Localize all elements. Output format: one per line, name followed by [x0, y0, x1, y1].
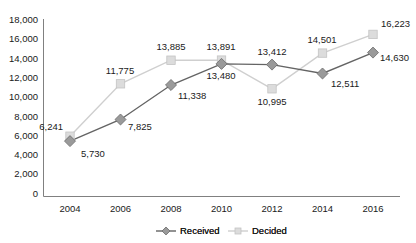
x-axis-tick-labels: 2004 2006 2008 2010 2012 2014 2016: [59, 203, 383, 214]
legend-marker-diamond-icon: [162, 227, 170, 235]
y-tick-label: 0: [33, 188, 38, 199]
data-point-decided: [318, 49, 326, 57]
legend-item-decided[interactable]: Decided Decided: [228, 225, 287, 236]
x-tick-label: 2008: [160, 203, 181, 214]
data-label-received: 13,480: [206, 70, 235, 81]
data-label-decided: 16,223: [381, 18, 410, 29]
chart-legend: Received Received Decided Decided: [156, 225, 287, 236]
data-label-received: 13,412: [257, 46, 286, 57]
data-label-received: 7,825: [128, 121, 152, 132]
data-point-received: [367, 47, 378, 58]
legend-item-received[interactable]: Received Received: [156, 225, 220, 236]
data-point-received: [317, 68, 328, 79]
y-tick-label: 6,000: [14, 130, 38, 141]
x-tick-label: 2004: [59, 203, 80, 214]
x-tick-label: 2012: [261, 203, 282, 214]
y-tick-label: 2,000: [14, 168, 38, 179]
data-label-decided: 11,775: [106, 65, 134, 76]
data-point-received: [165, 79, 176, 90]
data-point-received: [115, 114, 126, 125]
data-label-decided: 10,995: [257, 96, 286, 107]
data-label-received: 5,730: [81, 148, 105, 159]
data-label-decided: 13,885: [156, 41, 185, 52]
chart-container: 18,000 16,000 14,000 12,000 10,000 8,000…: [0, 0, 416, 243]
y-axis-tick-labels: 18,000 16,000 14,000 12,000 10,000 8,000…: [9, 14, 38, 199]
y-tick-label: 14,000: [9, 53, 38, 64]
y-tick-label: 12,000: [9, 72, 38, 83]
data-label-decided: 6,241: [39, 121, 63, 132]
legend-label-decided-alt: Decided: [252, 225, 287, 236]
x-tick-label: 2016: [362, 203, 383, 214]
y-tick-label: 18,000: [9, 14, 38, 25]
data-label-decided: 13,891: [206, 41, 235, 52]
series-markers-received: [64, 47, 378, 147]
y-tick-label: 8,000: [14, 111, 38, 122]
data-label-received: 11,338: [178, 90, 206, 101]
data-point-received: [266, 59, 277, 70]
data-label-received: 14,630: [380, 52, 409, 63]
data-label-decided: 14,501: [307, 34, 336, 45]
legend-label-received-alt: Received: [180, 225, 220, 236]
data-point-decided: [268, 85, 276, 93]
line-chart: 18,000 16,000 14,000 12,000 10,000 8,000…: [0, 0, 416, 243]
y-tick-label: 10,000: [9, 91, 38, 102]
x-tick-label: 2010: [211, 203, 232, 214]
y-tick-label: 16,000: [9, 33, 38, 44]
x-tick-label: 2006: [110, 203, 131, 214]
y-tick-label: 4,000: [14, 149, 38, 160]
data-point-decided: [167, 56, 175, 64]
legend-marker-square-icon: [235, 228, 241, 234]
data-labels-received: 5,730 7,825 11,338 13,480 13,412 12,511 …: [81, 46, 409, 159]
data-point-decided: [369, 30, 377, 38]
data-point-decided: [116, 80, 124, 88]
data-label-received: 12,511: [331, 78, 359, 89]
x-tick-label: 2014: [312, 203, 333, 214]
